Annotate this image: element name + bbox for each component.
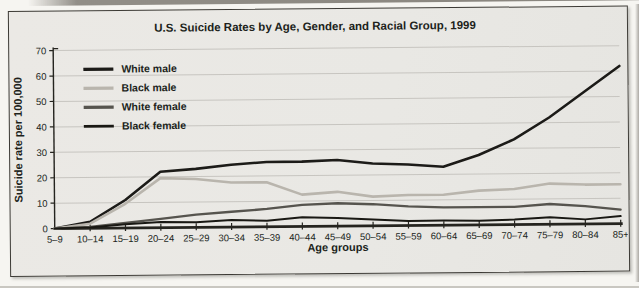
x-tick-label: 30–34 bbox=[218, 232, 245, 243]
x-tick-label: 65–69 bbox=[466, 230, 493, 241]
y-tick-label: 20 bbox=[37, 172, 48, 183]
x-tick-label: 70–74 bbox=[501, 229, 528, 240]
x-tick-label: 85+ bbox=[613, 229, 628, 240]
figure-panel: U.S. Suicide Rates by Age, Gender, and R… bbox=[8, 6, 630, 277]
scan-shadow-right bbox=[635, 4, 639, 282]
y-tick-label: 70 bbox=[36, 45, 47, 56]
x-tick-label: 50–54 bbox=[360, 231, 387, 242]
x-tick-label: 75–79 bbox=[537, 229, 564, 240]
x-tick-label: 80–84 bbox=[572, 229, 599, 240]
y-tick-label: 10 bbox=[37, 198, 48, 209]
chart-title: U.S. Suicide Rates by Age, Gender, and R… bbox=[154, 19, 476, 34]
legend-label-white-female: White female bbox=[122, 100, 187, 113]
x-tick-label: 55–59 bbox=[395, 230, 422, 241]
y-tick-label: 50 bbox=[36, 96, 47, 107]
y-tick-label: 60 bbox=[36, 71, 47, 82]
x-axis-title: Age groups bbox=[307, 241, 368, 254]
x-tick-label: 15–19 bbox=[112, 233, 139, 244]
x-tick-label: 35–39 bbox=[254, 232, 281, 243]
y-axis-line bbox=[53, 48, 55, 229]
x-tick-label: 40–44 bbox=[289, 231, 316, 242]
x-tick-label: 45–49 bbox=[325, 231, 352, 242]
gridline-y-30 bbox=[54, 147, 620, 152]
y-tick-label: 0 bbox=[42, 223, 47, 234]
x-tick-label: 5–9 bbox=[47, 234, 63, 245]
y-axis-title: Suicide rate per 100,000 bbox=[11, 77, 24, 202]
x-tick-label: 10–14 bbox=[77, 233, 104, 244]
x-tick-label: 20–24 bbox=[148, 233, 175, 244]
x-tick-label: 60–64 bbox=[431, 230, 458, 241]
scan-shadow-top bbox=[28, 0, 639, 6]
suicide-rates-line-chart: U.S. Suicide Rates by Age, Gender, and R… bbox=[9, 7, 628, 275]
legend: White maleBlack maleWhite femaleBlack fe… bbox=[83, 62, 187, 132]
gridline-y-70 bbox=[53, 46, 619, 51]
legend-label-white-male: White male bbox=[121, 62, 177, 74]
x-tick-label: 25–29 bbox=[183, 232, 210, 243]
legend-label-black-female: Black female bbox=[122, 119, 186, 132]
y-tick-label: 40 bbox=[36, 121, 47, 132]
gridline-y-20 bbox=[54, 173, 620, 178]
legend-label-black-male: Black male bbox=[121, 81, 176, 93]
y-tick-label: 30 bbox=[36, 147, 47, 158]
